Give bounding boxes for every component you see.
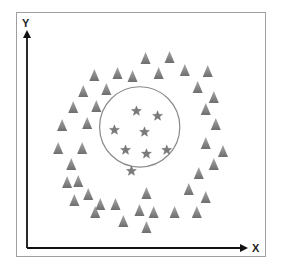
chart-frame [17,13,266,257]
x-axis-label: X [252,242,260,254]
scatter-chart: Y X [0,0,284,269]
y-axis-label: Y [22,17,30,29]
